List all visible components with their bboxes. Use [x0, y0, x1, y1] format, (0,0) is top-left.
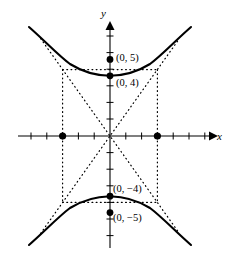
point-vertex-top [107, 72, 114, 79]
point-box-right [154, 132, 161, 139]
y-axis-label: y [101, 8, 106, 19]
hyperbola-figure: y x (0, 5) (0, 4) (0, −4) (0, −5) [0, 0, 233, 262]
label-vertex-top: (0, 4) [116, 78, 139, 89]
x-axis [18, 132, 218, 141]
label-focus-bottom: (0, −5) [113, 213, 142, 224]
point-focus-top [107, 56, 114, 63]
point-box-left [59, 132, 66, 139]
x-axis-label: x [217, 131, 222, 142]
label-focus-top: (0, 5) [116, 53, 139, 64]
label-vertex-bottom: (0, −4) [113, 184, 142, 195]
